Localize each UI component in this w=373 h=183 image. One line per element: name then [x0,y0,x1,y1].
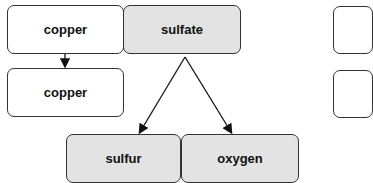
arrow-sulfate-to-oxygen [185,57,231,132]
arrow-sulfate-to-sulfur [140,57,185,132]
node-oxygen: oxygen [181,134,299,183]
node-sulfur: sulfur [66,134,181,183]
node-copper-bottom: copper [7,68,124,117]
node-label: sulfate [161,22,203,37]
node-label: oxygen [217,151,263,166]
node-label: copper [44,22,87,37]
node-partial-right-bottom [333,70,373,118]
node-partial-right-top [333,6,373,54]
node-sulfate: sulfate [123,5,241,54]
node-label: copper [44,85,87,100]
node-copper-top: copper [7,5,124,54]
node-label: sulfur [105,151,141,166]
